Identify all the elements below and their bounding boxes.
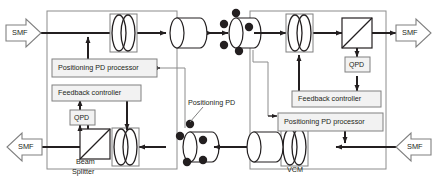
left-pd-processor-label: Positioning PD processor	[58, 64, 139, 71]
right-feedback-label: Feedback controller	[298, 95, 361, 102]
smf-in-right-label: SMF	[407, 143, 423, 150]
left-tx-lens	[110, 14, 137, 52]
free-space-link	[212, 33, 250, 147]
right-tx-collimator	[247, 132, 283, 162]
beam-splitter-label-line2: Splitter	[72, 168, 94, 175]
vcm-label: VCM	[287, 166, 303, 173]
left-qpd-label: QPD	[74, 114, 89, 121]
smf-out-left-label: SMF	[18, 143, 34, 150]
right-qpd-label: QPD	[349, 61, 364, 68]
right-pd-processor-label: Positioning PD processor	[284, 118, 365, 125]
right-beam-splitter	[342, 18, 372, 48]
left-tx-collimator	[170, 18, 207, 48]
optical-terminal-diagram: SMF SMF SMF SMF Positioning PD processor…	[0, 0, 437, 185]
beam-splitter-label-line1: Beam	[76, 158, 95, 165]
positioning-pd-callout-label: Positioning PD	[188, 99, 235, 106]
left-beam-splitter	[80, 129, 110, 159]
smf-in-left-label: SMF	[12, 29, 28, 36]
left-feedback-label: Feedback controller	[58, 89, 121, 96]
positioning-pd-callout-leader	[190, 107, 203, 122]
right-rx-lens	[286, 14, 313, 52]
left-rx-lens	[112, 128, 139, 166]
right-vcm-lens	[281, 128, 308, 166]
smf-out-right-label: SMF	[402, 29, 418, 36]
